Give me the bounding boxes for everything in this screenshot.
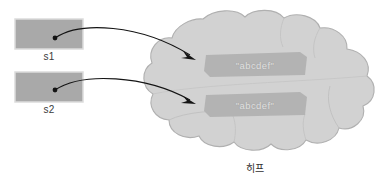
string-object-2-value: "abcdef"	[205, 100, 305, 111]
heap-label: 히프	[205, 160, 305, 175]
variable-label-s2: s2	[15, 104, 83, 115]
string-object-1-value: "abcdef"	[205, 60, 305, 71]
variable-label-s1: s1	[15, 51, 83, 62]
variable-box-s1	[15, 19, 83, 49]
heap-cloud	[144, 10, 374, 150]
diagram-graphics	[0, 0, 381, 182]
variable-box-s2	[15, 72, 83, 102]
diagram-canvas: s1 s2 "abcdef" "abcdef" 히프	[0, 0, 381, 182]
